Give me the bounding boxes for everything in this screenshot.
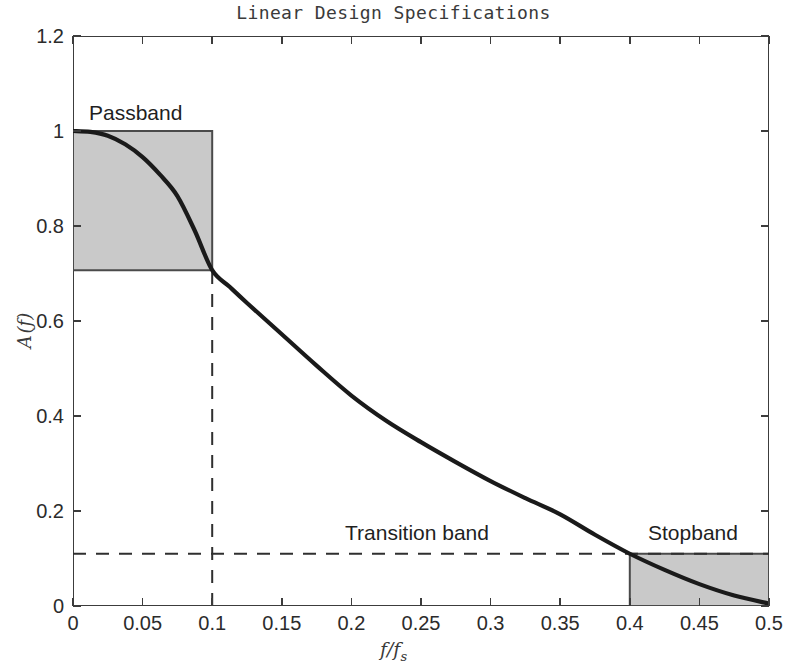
x-tick-top-2 <box>211 36 213 44</box>
passband-label: Passband <box>89 101 182 125</box>
y-tick-label-5: 1 <box>53 120 64 143</box>
y-tick-label-4: 0.8 <box>36 215 64 238</box>
x-tick-top-8 <box>629 36 631 44</box>
stopband-label: Stopband <box>648 521 738 545</box>
y-tick-right-5 <box>761 130 769 132</box>
x-tick-bottom-6 <box>490 598 492 606</box>
transition-band-label: Transition band <box>345 521 489 545</box>
y-tick-right-6 <box>761 35 769 37</box>
chart-title: Linear Design Specifications <box>0 2 787 23</box>
x-tick-label-0: 0 <box>67 612 78 635</box>
x-tick-top-7 <box>559 36 561 44</box>
y-axis-title: A (ƒ) <box>14 291 35 371</box>
x-tick-label-1: 0.05 <box>123 612 162 635</box>
y-tick-right-0 <box>761 605 769 607</box>
y-tick-label-3: 0.6 <box>36 310 64 333</box>
x-tick-top-3 <box>281 36 283 44</box>
x-tick-label-6: 0.3 <box>477 612 505 635</box>
y-tick-left-4 <box>73 225 81 227</box>
y-tick-left-6 <box>73 35 81 37</box>
x-tick-bottom-4 <box>351 598 353 606</box>
x-tick-label-2: 0.1 <box>198 612 226 635</box>
x-tick-bottom-5 <box>420 598 422 606</box>
x-tick-bottom-2 <box>211 598 213 606</box>
x-tick-top-9 <box>699 36 701 44</box>
x-tick-bottom-9 <box>699 598 701 606</box>
x-tick-top-0 <box>72 36 74 44</box>
y-tick-label-2: 0.4 <box>36 405 64 428</box>
y-tick-label-1: 0.2 <box>36 500 64 523</box>
x-tick-bottom-7 <box>559 598 561 606</box>
y-tick-right-1 <box>761 510 769 512</box>
y-tick-left-2 <box>73 415 81 417</box>
x-tick-bottom-3 <box>281 598 283 606</box>
x-tick-label-9: 0.45 <box>680 612 719 635</box>
x-tick-top-4 <box>351 36 353 44</box>
y-tick-left-1 <box>73 510 81 512</box>
x-tick-label-7: 0.35 <box>541 612 580 635</box>
x-tick-top-10 <box>768 36 770 44</box>
x-axis-title: f/fs <box>0 638 787 664</box>
x-tick-label-3: 0.15 <box>262 612 301 635</box>
y-tick-right-3 <box>761 320 769 322</box>
y-tick-right-4 <box>761 225 769 227</box>
y-tick-label-6: 1.2 <box>36 25 64 48</box>
y-tick-left-5 <box>73 130 81 132</box>
x-tick-label-8: 0.4 <box>616 612 644 635</box>
x-tick-top-5 <box>420 36 422 44</box>
y-tick-right-2 <box>761 415 769 417</box>
x-tick-label-10: 0.5 <box>755 612 783 635</box>
y-tick-left-0 <box>73 605 81 607</box>
x-tick-bottom-8 <box>629 598 631 606</box>
figure: Linear Design Specifications 00.050.10.1… <box>0 0 787 666</box>
x-tick-label-4: 0.2 <box>337 612 365 635</box>
y-tick-label-0: 0 <box>53 595 64 618</box>
passband-region <box>73 131 212 270</box>
x-tick-top-6 <box>490 36 492 44</box>
x-tick-label-5: 0.25 <box>402 612 441 635</box>
x-tick-top-1 <box>142 36 144 44</box>
y-tick-left-3 <box>73 320 81 322</box>
x-tick-bottom-1 <box>142 598 144 606</box>
